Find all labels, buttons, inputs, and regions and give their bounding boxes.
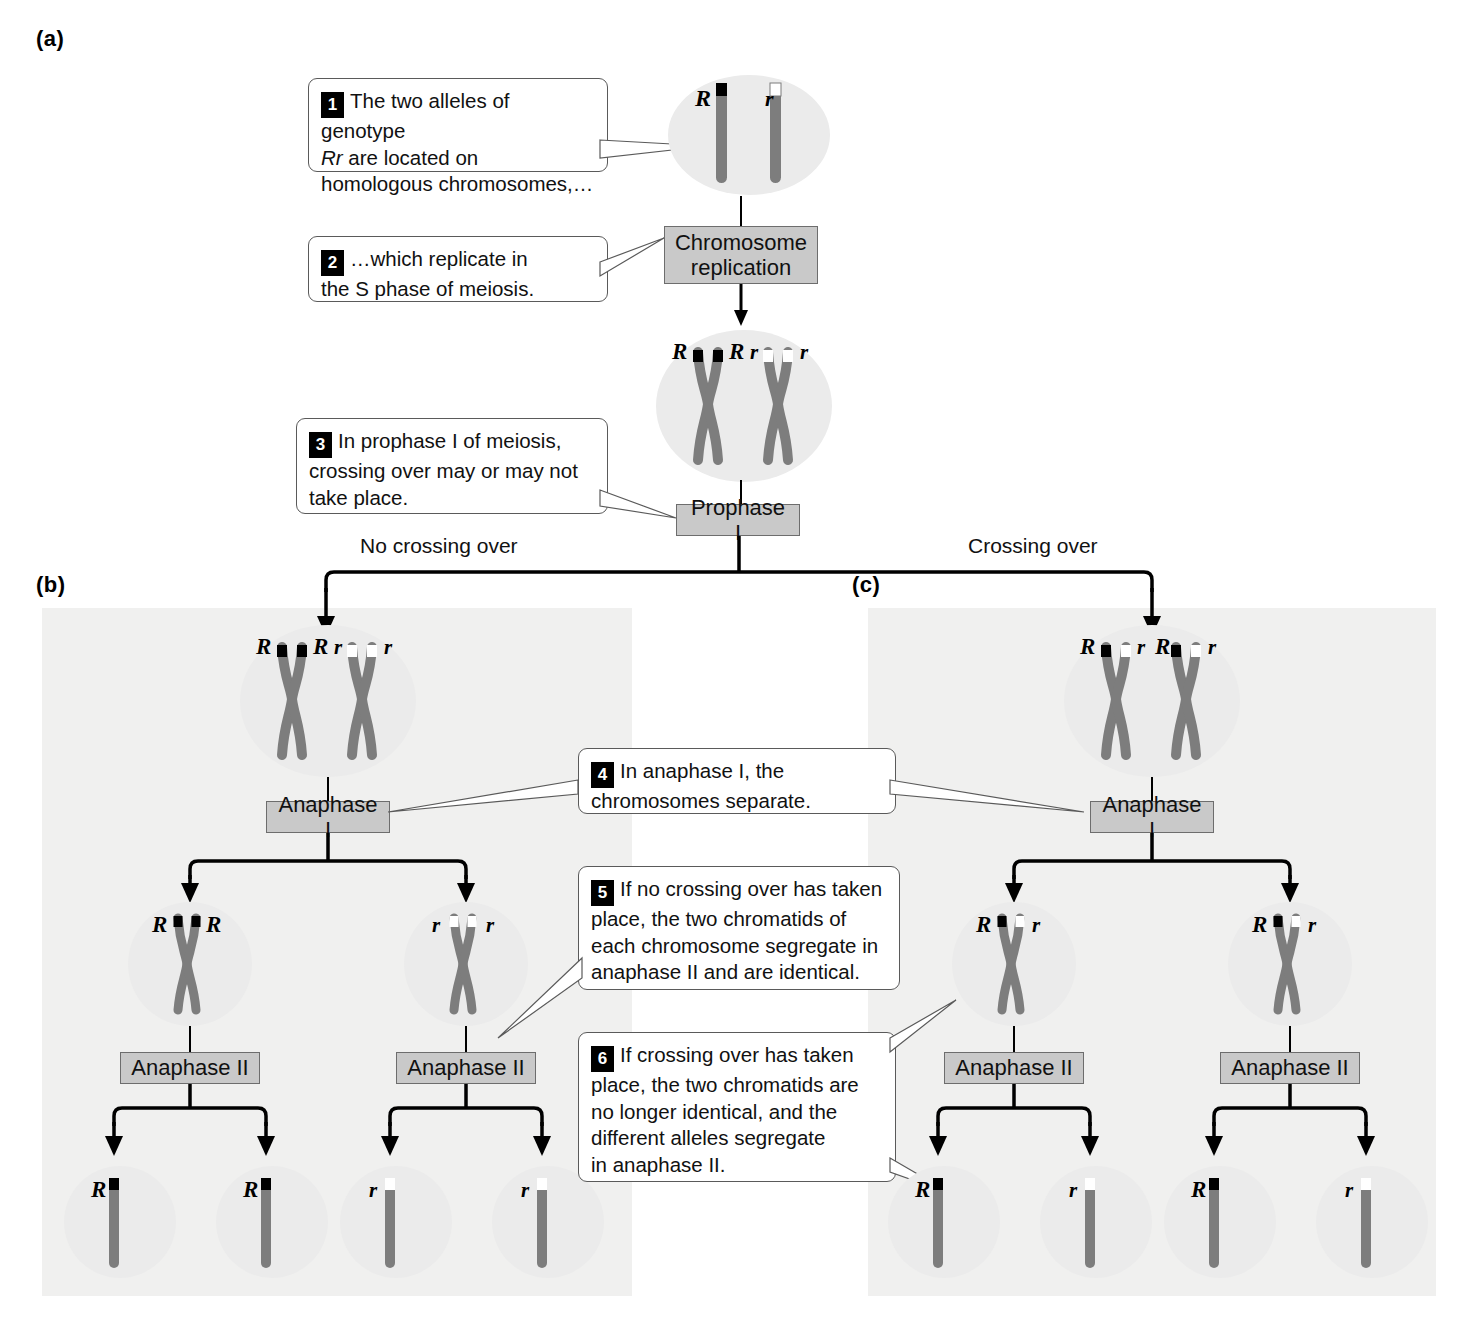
allele-label-c-prophase-r2: r (1208, 637, 1216, 658)
allele-label-c-left-R: R (976, 913, 991, 936)
connector-c-2 (1013, 1026, 1015, 1052)
allele-label-b-RR-1: R (152, 913, 167, 936)
allele-label-b-rr-1: r (432, 915, 440, 936)
connector-a-1 (740, 196, 742, 226)
panel-label-a: (a) (36, 26, 64, 52)
connector-b-2 (189, 1026, 191, 1052)
chromosome-c-gamete-3 (1164, 1166, 1276, 1278)
chromosome-c-gamete-2 (1040, 1166, 1152, 1278)
connector-b-3 (465, 1026, 467, 1052)
allele-label-c-gamete-1: R (915, 1178, 930, 1201)
allele-label-b-prophase-R1: R (256, 635, 271, 658)
allele-label-b-prophase-R2: R (313, 635, 328, 658)
allele-label-b-RR-2: R (206, 913, 221, 936)
allele-label-c-right-R: R (1252, 913, 1267, 936)
chromosome-b-gamete-1 (64, 1166, 176, 1278)
allele-label-a-rep-R1: R (672, 340, 687, 363)
stage-box-b-anaphase-ii-left[interactable]: Anaphase II (120, 1052, 260, 1084)
callout-2: 2…which replicate inthe S phase of meios… (308, 236, 608, 302)
chromosomes-c-Rr-right (1228, 902, 1352, 1026)
stage-box-c-anaphase-ii-left[interactable]: Anaphase II (944, 1052, 1084, 1084)
branch-prophase-split (0, 536, 1471, 646)
allele-label-c-right-r: r (1308, 915, 1316, 936)
chromosome-c-gamete-4 (1316, 1166, 1428, 1278)
allele-label-c-gamete-2: r (1069, 1180, 1077, 1201)
allele-label-b-gamete-3: r (369, 1180, 377, 1201)
callout-1: 1The two alleles of genotypeRr are locat… (308, 78, 608, 172)
callout-3-text: In prophase I of meiosis,crossing over m… (309, 429, 578, 509)
stage-box-b-anaphase-i[interactable]: Anaphase I (266, 801, 390, 833)
callout-1-text: The two alleles of genotypeRr are locate… (321, 89, 593, 195)
allele-label-c-prophase-R2: R (1155, 635, 1170, 658)
callout-4: 4In anaphase I, thechromosomes separate. (578, 748, 896, 814)
allele-label-c-gamete-4: r (1345, 1180, 1353, 1201)
callout-3-number: 3 (309, 432, 332, 458)
allele-label-a-r: r (765, 88, 774, 110)
callout-4-text: In anaphase I, thechromosomes separate. (591, 759, 811, 812)
callout-2-number: 2 (321, 250, 344, 276)
stage-box-chromosome-replication[interactable]: Chromosome replication (664, 226, 818, 284)
stage-box-c-anaphase-ii-right[interactable]: Anaphase II (1220, 1052, 1360, 1084)
allele-label-c-left-r: r (1032, 915, 1040, 936)
allele-label-b-gamete-2: R (243, 1178, 258, 1201)
callout-3: 3In prophase I of meiosis,crossing over … (296, 418, 608, 514)
branch-label-crossing-over: Crossing over (968, 534, 1098, 558)
chromosomes-b-rr (404, 902, 528, 1026)
allele-label-c-prophase-R1: R (1080, 635, 1095, 658)
allele-label-a-R: R (695, 86, 711, 110)
callout-4-number: 4 (591, 762, 614, 788)
allele-label-b-rr-2: r (486, 915, 494, 936)
branch-c-anaphase-ii-right (740, 1084, 1471, 1160)
allele-label-b-gamete-1: R (91, 1178, 106, 1201)
allele-label-a-rep-r1: r (750, 342, 758, 363)
arrow-a-replication (734, 284, 750, 328)
stage-box-chromosome-replication-line2: replication (691, 255, 791, 280)
allele-label-b-prophase-r1: r (334, 637, 342, 658)
branch-label-no-crossing-over: No crossing over (360, 534, 518, 558)
chromosomes-b-RR (128, 902, 252, 1026)
chromosome-b-gamete-2 (216, 1166, 328, 1278)
chromosomes-c-Rr-left (952, 902, 1076, 1026)
callout-6-number: 6 (591, 1046, 614, 1072)
allele-label-b-gamete-4: r (521, 1180, 529, 1201)
allele-label-c-prophase-r1: r (1137, 637, 1145, 658)
allele-label-a-rep-R2: R (729, 340, 744, 363)
stage-box-c-anaphase-i[interactable]: Anaphase I (1090, 801, 1214, 833)
connector-c-3 (1289, 1026, 1291, 1052)
callout-1-number: 1 (321, 92, 344, 118)
chromosome-b-gamete-4 (492, 1166, 604, 1278)
allele-label-c-gamete-3: R (1191, 1178, 1206, 1201)
callout-5-number: 5 (591, 880, 614, 906)
stage-box-chromosome-replication-line1: Chromosome (675, 230, 807, 255)
callout-2-text: …which replicate inthe S phase of meiosi… (321, 247, 534, 300)
chromosome-c-gamete-1 (888, 1166, 1000, 1278)
allele-label-a-rep-r2: r (800, 342, 808, 363)
chromosome-b-gamete-3 (340, 1166, 452, 1278)
allele-label-b-prophase-r2: r (384, 637, 392, 658)
branch-c-anaphase-i (740, 833, 1471, 905)
stage-box-b-anaphase-ii-right[interactable]: Anaphase II (396, 1052, 536, 1084)
stage-box-prophase-i[interactable]: Prophase I (676, 504, 800, 536)
chromosomes-a-unreplicated (668, 75, 830, 195)
